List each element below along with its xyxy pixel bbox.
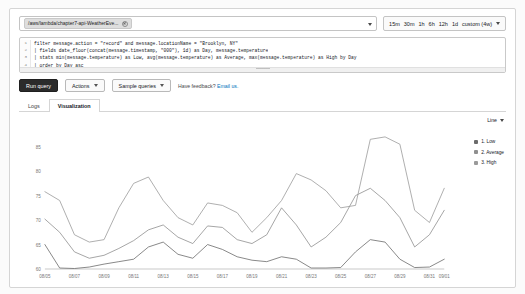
x-axis-tick-label: 08/09 (98, 274, 110, 279)
app-root: /aws/lambda/chapter7-api-WeatherEve... 1… (0, 0, 525, 294)
line-chart: 85807570656008/0508/0708/0908/1108/1308/… (19, 128, 506, 285)
time-range-selector[interactable]: 15m 30m 1h 6h 12h 1d custom (4w) (383, 16, 506, 31)
log-group-tag-label: /aws/lambda/chapter7-api-WeatherEve... (28, 18, 119, 29)
x-axis-tick-label: 08/07 (69, 274, 81, 279)
chevron-down-icon (500, 119, 504, 122)
chevron-down-icon[interactable] (368, 23, 372, 26)
chevron-down-icon (94, 84, 98, 87)
x-axis-tick-label: 09/01 (439, 274, 451, 279)
x-axis-tick-label: 08/19 (246, 274, 258, 279)
sample-queries-button[interactable]: Sample queries (112, 79, 171, 92)
chart-series-line-2 (45, 188, 444, 258)
x-axis-tick-label: 08/21 (276, 274, 288, 279)
legend-label: 1. Low (481, 139, 495, 144)
logs-insights-panel: /aws/lambda/chapter7-api-WeatherEve... 1… (9, 8, 516, 288)
log-group-tag[interactable]: /aws/lambda/chapter7-api-WeatherEve... (24, 18, 132, 29)
legend-label: 2. Average (481, 150, 504, 155)
time-range-1h[interactable]: 1h (418, 21, 424, 27)
legend-swatch-icon (474, 140, 478, 144)
legend-swatch-icon (474, 150, 478, 154)
x-axis-tick-label: 08/15 (187, 274, 199, 279)
actions-button[interactable]: Actions (65, 79, 105, 92)
query-line-text[interactable]: | fields date_floor(concat(message.times… (34, 47, 268, 54)
legend-item-2[interactable]: 2. Average (474, 150, 504, 155)
chart-series-line-1 (45, 240, 444, 269)
legend-item-3[interactable]: 3. High (474, 160, 504, 165)
time-range-6h[interactable]: 6h (429, 21, 435, 27)
actions-label: Actions (72, 83, 90, 89)
x-axis-tick-label: 08/31 (424, 274, 436, 279)
x-axis-tick-label: 08/05 (39, 274, 51, 279)
tab-logs[interactable]: Logs (19, 99, 49, 112)
y-axis-tick-label: 85 (36, 145, 42, 150)
x-axis-tick-label: 08/25 (335, 274, 347, 279)
y-axis-tick-label: 75 (36, 194, 42, 199)
tab-visualization[interactable]: Visualization (49, 99, 100, 112)
time-range-12h[interactable]: 12h (439, 21, 448, 27)
resize-grip-icon[interactable] (256, 68, 270, 71)
x-axis-tick-label: 08/27 (365, 274, 377, 279)
x-axis-tick-label: 08/11 (128, 274, 139, 279)
run-query-button[interactable]: Run query (19, 79, 58, 92)
query-editor[interactable]: 1 filter message.action = "record" and m… (19, 37, 506, 73)
line-number: 3 (20, 54, 31, 61)
chevron-down-icon[interactable] (496, 22, 500, 25)
feedback-text: Have feedback? Email us. (178, 83, 238, 89)
query-line: 2 | fields date_floor(concat(message.tim… (20, 47, 505, 54)
line-number: 1 (20, 40, 31, 47)
result-tabs: Logs Visualization (19, 99, 506, 112)
line-number: 2 (20, 47, 31, 54)
visualization-area: Line 85807570656008/0508/0708/0908/1108/… (19, 117, 506, 285)
chart-svg: 85807570656008/0508/0708/0908/1108/1308/… (19, 128, 506, 285)
log-group-selector[interactable]: /aws/lambda/chapter7-api-WeatherEve... (19, 16, 377, 31)
email-us-link[interactable]: Email us. (217, 83, 238, 89)
query-line-text[interactable]: | stats min(message.temperature) as Low,… (34, 54, 357, 61)
chart-series-line-3 (45, 137, 444, 242)
x-axis-tick-label: 08/23 (306, 274, 318, 279)
time-range-1d[interactable]: 1d (452, 21, 458, 27)
x-axis-tick-label: 08/29 (394, 274, 406, 279)
chart-type-selector[interactable]: Line (487, 117, 504, 123)
sample-queries-label: Sample queries (119, 83, 156, 89)
chart-type-label: Line (487, 117, 497, 123)
query-line-text[interactable]: filter message.action = "record" and mes… (34, 40, 238, 47)
y-axis-tick-label: 65 (36, 243, 42, 248)
time-range-30m[interactable]: 30m (404, 21, 415, 27)
x-axis-tick-label: 08/17 (217, 274, 229, 279)
query-line: 3 | stats min(message.temperature) as Lo… (20, 54, 505, 61)
query-line: 1 filter message.action = "record" and m… (20, 40, 505, 47)
chart-legend: 1. Low2. Average3. High (474, 139, 504, 165)
query-toolbar: Run query Actions Sample queries Have fe… (19, 79, 506, 92)
x-axis-tick-label: 08/13 (158, 274, 170, 279)
time-range-custom[interactable]: custom (4w) (462, 21, 492, 27)
top-controls-row: /aws/lambda/chapter7-api-WeatherEve... 1… (19, 16, 506, 31)
legend-label: 3. High (481, 160, 496, 165)
feedback-prompt: Have feedback? (178, 83, 216, 89)
y-axis-tick-label: 70 (36, 218, 42, 223)
chevron-down-icon (160, 84, 164, 87)
close-circle-icon[interactable] (122, 21, 128, 27)
legend-item-1[interactable]: 1. Low (474, 139, 504, 144)
y-axis-tick-label: 60 (36, 267, 42, 272)
time-range-15m[interactable]: 15m (389, 21, 400, 27)
y-axis-tick-label: 80 (36, 169, 42, 174)
legend-swatch-icon (474, 161, 478, 165)
